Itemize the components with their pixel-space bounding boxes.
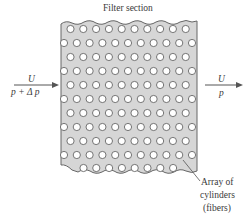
cylinder-fiber <box>93 137 100 144</box>
cylinder-fiber <box>150 95 157 102</box>
cylinder-fiber <box>137 123 144 130</box>
cylinder-fiber <box>182 109 189 116</box>
cylinder-fiber <box>67 81 74 88</box>
cylinder-fiber <box>112 123 119 130</box>
cylinder-fiber <box>169 109 176 116</box>
cylinder-fiber <box>67 137 74 144</box>
cylinder-fiber <box>144 53 151 60</box>
inlet-velocity-label: U <box>28 74 35 84</box>
cylinder-fiber <box>188 95 195 102</box>
cylinder-fiber <box>137 151 144 158</box>
cylinder-fiber <box>131 81 138 88</box>
cylinder-fiber <box>67 109 74 116</box>
cylinder-fiber <box>118 137 125 144</box>
cylinder-fiber <box>169 25 176 32</box>
cylinder-fiber <box>182 53 189 60</box>
cylinder-fiber <box>106 164 113 171</box>
cylinder-fiber <box>105 53 112 60</box>
cylinder-fiber <box>67 53 74 60</box>
cylinder-fiber <box>93 25 100 32</box>
cylinder-fiber <box>169 81 176 88</box>
cylinder-fiber <box>99 95 106 102</box>
cylinder-fiber <box>60 67 67 74</box>
cylinder-fiber <box>150 123 157 130</box>
outlet-pressure-label: p <box>219 88 224 98</box>
cylinder-fiber <box>93 81 100 88</box>
cylinder-fiber <box>170 164 177 171</box>
cylinder-fiber <box>80 164 87 171</box>
cylinder-fiber <box>144 164 151 171</box>
cylinder-fiber <box>150 151 157 158</box>
cylinder-fiber <box>118 25 125 32</box>
cylinder-fiber <box>176 67 183 74</box>
cylinder-fiber <box>124 151 131 158</box>
callout-line-2: cylinders <box>200 190 235 200</box>
cylinder-fiber <box>105 25 112 32</box>
cylinder-fiber <box>176 151 183 158</box>
cylinder-fiber <box>163 95 170 102</box>
cylinder-fiber <box>80 109 87 116</box>
cylinder-fiber <box>67 25 74 32</box>
cylinder-fiber <box>112 67 119 74</box>
cylinder-fiber <box>169 137 176 144</box>
cylinder-fiber <box>99 39 106 46</box>
cylinder-fiber <box>99 67 106 74</box>
cylinder-fiber <box>163 123 170 130</box>
cylinder-fiber <box>60 123 67 130</box>
cylinder-fiber <box>80 137 87 144</box>
cylinder-fiber <box>150 67 157 74</box>
cylinder-fiber <box>124 39 131 46</box>
cylinder-fiber <box>176 95 183 102</box>
filter-diagram <box>0 0 251 221</box>
cylinder-fiber <box>80 25 87 32</box>
cylinder-fiber <box>137 95 144 102</box>
cylinder-fiber <box>188 67 195 74</box>
cylinder-fiber <box>86 39 93 46</box>
cylinder-fiber <box>157 109 164 116</box>
cylinder-fiber <box>80 81 87 88</box>
cylinder-fiber <box>99 151 106 158</box>
cylinder-fiber <box>157 164 164 171</box>
outlet-velocity-label: U <box>218 74 225 84</box>
cylinder-fiber <box>144 25 151 32</box>
cylinder-fiber <box>112 151 119 158</box>
cylinder-fiber <box>157 53 164 60</box>
cylinder-fiber <box>118 53 125 60</box>
cylinder-fiber <box>118 164 125 171</box>
cylinder-fiber <box>112 39 119 46</box>
cylinder-fiber <box>112 95 119 102</box>
cylinder-fiber <box>163 151 170 158</box>
cylinder-fiber <box>99 123 106 130</box>
cylinder-fiber <box>131 53 138 60</box>
cylinder-fiber <box>188 123 195 130</box>
cylinder-fiber <box>131 164 138 171</box>
cylinder-fiber <box>93 164 100 171</box>
cylinder-fiber <box>150 39 157 46</box>
cylinder-fiber <box>157 81 164 88</box>
cylinder-fiber <box>176 123 183 130</box>
inlet-pressure-label: p + Δ p <box>11 87 39 97</box>
cylinder-fiber <box>93 109 100 116</box>
cylinder-fiber <box>73 151 80 158</box>
cylinder-fiber <box>93 53 100 60</box>
cylinder-fiber <box>73 123 80 130</box>
callout-line-1: Array of <box>201 177 233 187</box>
cylinder-fiber <box>60 39 67 46</box>
cylinder-fiber <box>144 109 151 116</box>
cylinder-fiber <box>60 151 67 158</box>
filter-section-title: Filter section <box>103 3 153 13</box>
cylinder-fiber <box>137 67 144 74</box>
cylinder-fiber <box>144 81 151 88</box>
cylinder-fiber <box>182 137 189 144</box>
cylinder-fiber <box>163 39 170 46</box>
cylinder-fiber <box>105 109 112 116</box>
cylinder-fiber <box>86 67 93 74</box>
cylinder-fiber <box>118 109 125 116</box>
cylinder-fiber <box>131 137 138 144</box>
cylinder-fiber <box>131 25 138 32</box>
cylinder-fiber <box>73 39 80 46</box>
cylinder-fiber <box>182 25 189 32</box>
cylinder-fiber <box>131 109 138 116</box>
cylinder-fiber <box>73 67 80 74</box>
cylinder-fiber <box>105 137 112 144</box>
